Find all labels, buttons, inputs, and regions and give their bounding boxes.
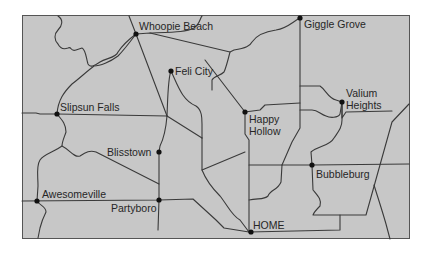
road-map: Whoopie BeachGiggle GroveFeli CityValium…: [0, 0, 427, 255]
city-label: Partyboro: [111, 202, 157, 214]
map-canvas: Whoopie BeachGiggle GroveFeli CityValium…: [0, 0, 427, 255]
city-feli-city: Feli City: [168, 65, 213, 77]
city-label: Slipsun Falls: [60, 101, 120, 113]
city-label: HOME: [253, 219, 285, 231]
city-marker-icon: [168, 68, 173, 73]
city-marker-icon: [339, 99, 344, 104]
city-label: Whoopie Beach: [139, 20, 213, 32]
city-label: Feli City: [175, 65, 214, 77]
city-label: Awesomeville: [42, 188, 106, 200]
city-marker-icon: [156, 197, 161, 202]
city-marker-icon: [34, 198, 39, 203]
city-marker-icon: [54, 111, 59, 116]
city-marker-icon: [242, 109, 247, 114]
city-label: Heights: [346, 99, 382, 111]
city-marker-icon: [156, 149, 161, 154]
city-label: Blisstown: [107, 146, 152, 158]
city-label: Happy: [249, 113, 280, 125]
city-label: Valium: [346, 87, 378, 99]
city-marker-icon: [297, 15, 302, 20]
city-giggle-grove: Giggle Grove: [297, 15, 366, 30]
city-marker-icon: [133, 31, 138, 36]
city-label: Bubbleburg: [316, 168, 370, 180]
city-valium-heights: ValiumHeights: [339, 87, 381, 111]
city-label: Hollow: [249, 125, 281, 137]
city-label: Giggle Grove: [304, 18, 366, 30]
city-marker-icon: [309, 162, 314, 167]
city-happy-hollow: HappyHollow: [242, 109, 281, 137]
